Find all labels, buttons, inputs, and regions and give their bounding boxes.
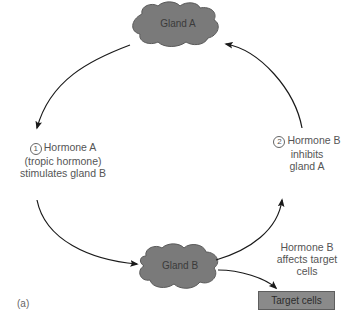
- step2-line1: Hormone B: [287, 134, 340, 146]
- step1-line1: Hormone A: [44, 141, 97, 153]
- step1-number-icon: 1: [30, 143, 42, 155]
- panel-label: (a): [17, 298, 29, 309]
- target-cells-label: Target cells: [271, 295, 322, 306]
- step1-line2: (tropic hormone): [8, 155, 118, 167]
- effect-line1: Hormone B: [262, 241, 352, 253]
- step2-line3: gland A: [262, 160, 352, 172]
- effect-line2: affects target: [262, 253, 352, 265]
- step2-line2: inhibits: [262, 148, 352, 160]
- arrow-step1-to-gland-b: [37, 200, 137, 264]
- effect-line3: cells: [262, 265, 352, 277]
- arrow-gland-a-to-step1: [37, 45, 130, 128]
- target-cells-box: Target cells: [258, 291, 335, 310]
- effect-text: Hormone B affects target cells: [262, 241, 352, 277]
- step2-text: 2Hormone B inhibits gland A: [262, 134, 352, 172]
- gland-b-label: Gland B: [150, 260, 210, 271]
- arrow-step2-to-gland-a: [226, 44, 302, 128]
- step1-line3: stimulates gland B: [8, 167, 118, 179]
- step1-text: 1Hormone A (tropic hormone) stimulates g…: [8, 141, 118, 179]
- step2-number-icon: 2: [273, 136, 285, 148]
- gland-a-label: Gland A: [148, 18, 208, 29]
